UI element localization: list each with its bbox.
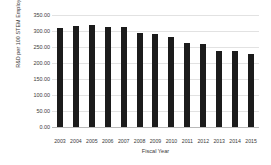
bar[interactable] bbox=[184, 43, 190, 127]
bar-slot bbox=[163, 15, 179, 127]
y-tick-label: 150.00 bbox=[22, 76, 50, 82]
bar-slot bbox=[211, 15, 227, 127]
bar-slot bbox=[100, 15, 116, 127]
bar-slot bbox=[68, 15, 84, 127]
bar[interactable] bbox=[89, 25, 95, 127]
x-tick-slot: 2009 bbox=[148, 129, 164, 147]
x-tick-slot: 2004 bbox=[68, 129, 84, 147]
x-tick-label: 2004 bbox=[70, 138, 82, 144]
x-tick-slot: 2011 bbox=[179, 129, 195, 147]
bar-slot bbox=[227, 15, 243, 127]
y-tick-label: 350.00 bbox=[22, 12, 50, 18]
y-tick-label: 200.00 bbox=[22, 60, 50, 66]
x-tick-label: 2005 bbox=[86, 138, 98, 144]
bar-chart: R&D per 100 STEM Employees - HHS 350.003… bbox=[0, 0, 271, 165]
y-tick-label: 0.00 bbox=[22, 124, 50, 130]
x-tick-label: 2003 bbox=[54, 138, 66, 144]
y-tick-label: 50.00 bbox=[22, 108, 50, 114]
bar[interactable] bbox=[57, 28, 63, 127]
x-tick-label: 2006 bbox=[102, 138, 114, 144]
y-axis-title: R&D per 100 STEM Employees - HHS bbox=[15, 0, 21, 81]
x-tick-label: 2008 bbox=[134, 138, 146, 144]
x-tick-label: 2011 bbox=[182, 138, 193, 144]
x-tick-slot: 2013 bbox=[211, 129, 227, 147]
bar[interactable] bbox=[137, 33, 143, 127]
axis-baseline bbox=[52, 127, 259, 128]
bar[interactable] bbox=[152, 34, 158, 127]
bar-slot bbox=[195, 15, 211, 127]
x-tick-label: 2013 bbox=[213, 138, 225, 144]
bars-layer bbox=[52, 15, 259, 127]
y-tick-label: 100.00 bbox=[22, 92, 50, 98]
plot-area bbox=[52, 15, 259, 127]
x-tick-slot: 2012 bbox=[195, 129, 211, 147]
x-tick-label: 2009 bbox=[150, 138, 162, 144]
bar[interactable] bbox=[248, 54, 254, 127]
y-tick-label: 300.00 bbox=[22, 28, 50, 34]
x-tick-slot: 2008 bbox=[132, 129, 148, 147]
bar[interactable] bbox=[200, 44, 206, 127]
bar-slot bbox=[84, 15, 100, 127]
bar[interactable] bbox=[73, 26, 79, 127]
x-tick-label: 2014 bbox=[229, 138, 241, 144]
x-axis-title: Fiscal Year bbox=[52, 148, 259, 154]
x-tick-label: 2010 bbox=[166, 138, 178, 144]
x-axis-tick-labels: 2003200420052006200720082009201020112012… bbox=[52, 129, 259, 147]
x-tick-slot: 2006 bbox=[100, 129, 116, 147]
x-tick-slot: 2007 bbox=[116, 129, 132, 147]
x-tick-slot: 2005 bbox=[84, 129, 100, 147]
bar[interactable] bbox=[216, 51, 222, 127]
bar[interactable] bbox=[121, 27, 127, 127]
x-tick-slot: 2010 bbox=[163, 129, 179, 147]
y-tick-label: 250.00 bbox=[22, 44, 50, 50]
x-tick-slot: 2015 bbox=[243, 129, 259, 147]
x-tick-slot: 2003 bbox=[52, 129, 68, 147]
bar[interactable] bbox=[105, 27, 111, 127]
bar-slot bbox=[52, 15, 68, 127]
x-tick-label: 2007 bbox=[118, 138, 130, 144]
x-tick-label: 2012 bbox=[197, 138, 209, 144]
bar-slot bbox=[243, 15, 259, 127]
bar-slot bbox=[179, 15, 195, 127]
bar-slot bbox=[116, 15, 132, 127]
bar-slot bbox=[148, 15, 164, 127]
bar[interactable] bbox=[232, 51, 238, 127]
bar-slot bbox=[132, 15, 148, 127]
bar[interactable] bbox=[168, 37, 174, 127]
y-axis-tick-labels: 350.00300.00250.00200.00150.00100.0050.0… bbox=[22, 15, 50, 127]
x-tick-slot: 2014 bbox=[227, 129, 243, 147]
x-tick-label: 2015 bbox=[245, 138, 257, 144]
